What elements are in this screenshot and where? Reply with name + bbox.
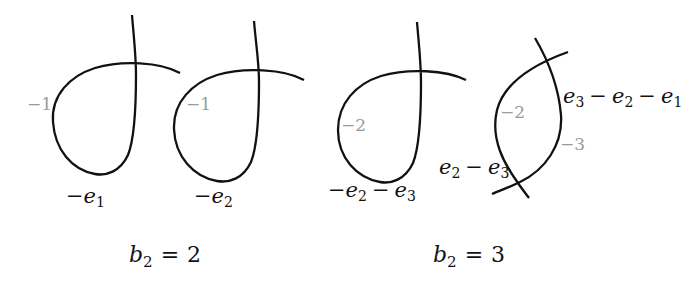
self-intersection-weight-label: −1 — [186, 96, 211, 113]
class-label-neg-e2-minus-e3: −e2−e3 — [328, 180, 416, 201]
class-label-neg-e2: −e2 — [194, 186, 233, 207]
caption-b2-eq-2: b2=2 — [129, 244, 201, 266]
curve-weight-label: −3 — [560, 136, 585, 153]
self-intersection-weight-label: −1 — [27, 96, 52, 113]
class-label-neg-e1: −e1 — [66, 186, 105, 207]
nodal-curve-e1 — [53, 15, 180, 174]
self-intersection-weight-label: −2 — [341, 117, 366, 134]
diagram-canvas: −1 −1 −2 −2 −3 −e1 −e2 −e2−e3 e2−e3 e3−e… — [0, 0, 696, 285]
curve-weight-label: −2 — [500, 104, 525, 121]
class-label-e2-minus-e3: e2−e3 — [439, 157, 509, 178]
class-label-e3-minus-e2-minus-e1: e3−e2−e1 — [563, 86, 682, 107]
curves-layer — [0, 0, 696, 285]
caption-b2-eq-3: b2=3 — [433, 244, 505, 266]
